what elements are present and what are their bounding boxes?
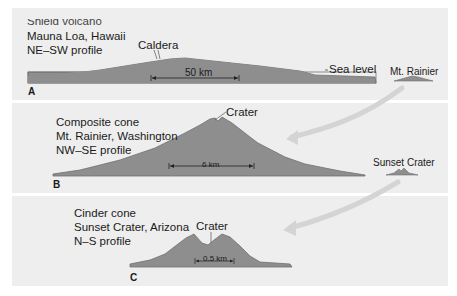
comparison-arrow-b-c (290, 182, 398, 228)
mt-rainier-mini-label: Mt. Rainier (390, 65, 438, 79)
sea-level-label: Sea level (329, 62, 376, 76)
scale-6km-label: 6 km (202, 158, 219, 172)
scale-0-5km-label: 0.5 km (203, 252, 227, 266)
crater-label-c: Crater (196, 219, 228, 233)
panel-a-title-line-2: Mauna Loa, Hawaii (27, 29, 125, 43)
sunset-crater-mini-label: Sunset Crater (373, 156, 435, 170)
crater-label-b: Crater (226, 105, 258, 119)
panel-c-letter: C (130, 272, 137, 283)
panel-b-letter: B (53, 179, 60, 190)
panel-c-title-line-3: N–S profile (74, 234, 131, 248)
panel-c-title-line-1: Cinder cone (74, 206, 136, 220)
panel-b-title-line-1: Composite cone (56, 115, 139, 129)
panel-b-title-line-3: NW–SE profile (56, 143, 131, 157)
scale-50km-label: 50 km (185, 66, 212, 80)
panel-a-title-line-3: NE–SW profile (27, 43, 102, 57)
comparison-arrow-a-b (292, 88, 402, 137)
panel-c-title-line-2: Sunset Crater, Arizona (74, 220, 189, 234)
caldera-label: Caldera (138, 38, 178, 52)
panel-a-letter: A (28, 86, 35, 97)
panel-b-title-line-2: Mt. Rainier, Washington (56, 129, 178, 143)
